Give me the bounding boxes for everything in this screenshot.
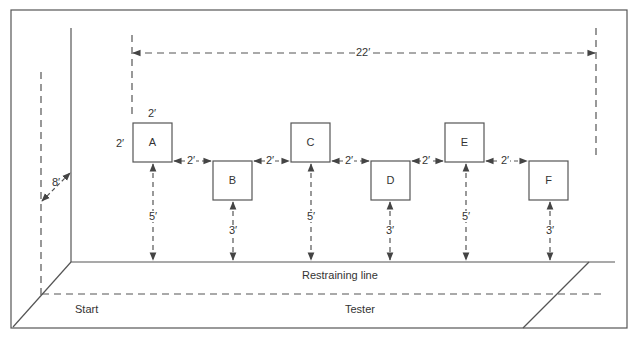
dist-f-label: 3′: [545, 225, 555, 236]
dist-c-label: 5′: [306, 211, 316, 222]
gap-bc-label: 2′: [265, 155, 275, 166]
dist-b-label: 3′: [228, 225, 238, 236]
start-label: Start: [75, 304, 98, 315]
box-c-label: C: [291, 137, 330, 148]
box-e-label: E: [445, 137, 484, 148]
gap-cd-label: 2′: [344, 155, 354, 166]
box-f-label: F: [529, 175, 568, 186]
restraining-line-label: Restraining line: [302, 270, 378, 281]
tester-label: Tester: [345, 304, 375, 315]
box-a-label: A: [133, 137, 172, 148]
gap-de-label: 2′: [421, 155, 431, 166]
span-label: 22′: [355, 47, 371, 58]
dist-a-label: 5′: [148, 211, 158, 222]
dist-d-label: 3′: [385, 225, 395, 236]
box-b-label: B: [213, 175, 252, 186]
wall-offset-label: 8′: [51, 177, 61, 188]
box-width-label: 2′: [148, 108, 156, 119]
floor-right-edge: [523, 262, 589, 328]
box-height-label: 2′: [116, 138, 124, 149]
gap-ab-label: 2′: [186, 155, 196, 166]
gap-ef-label: 2′: [500, 155, 510, 166]
dist-e-label: 5′: [461, 211, 471, 222]
floor-diagram: [0, 0, 635, 338]
box-d-label: D: [371, 175, 410, 186]
